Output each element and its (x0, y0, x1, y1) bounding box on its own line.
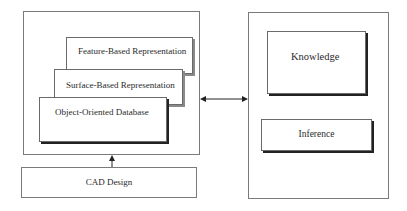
cad-to-representation-arrow (109, 155, 115, 167)
connector-arrows (0, 0, 407, 211)
bidirectional-arrow (200, 96, 248, 102)
